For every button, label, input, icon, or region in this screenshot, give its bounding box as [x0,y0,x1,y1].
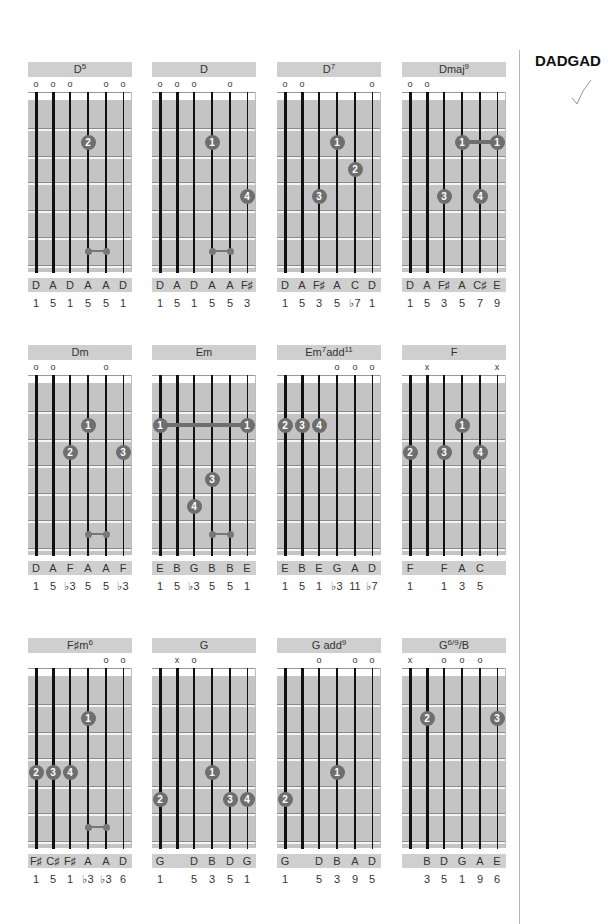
note-name: D [364,561,380,575]
interval-label: 5 [185,872,203,886]
fret-line [152,411,256,414]
note-name: A [294,278,310,292]
open-string-marker: o [297,79,307,89]
fret-line [28,156,132,159]
guitar-string [479,92,480,273]
guitar-string [159,668,162,849]
fret-line [28,210,132,213]
interval-label: 1 [363,296,381,310]
chord-chart: Gxo1234GDBDG15351 [152,638,256,888]
note-name: E [277,561,293,575]
fretboard-edge [380,668,381,848]
guitar-string [301,375,304,556]
fret-line [277,758,381,761]
chord-chart: G add9ooo12GDBAD15395 [277,638,381,888]
fret-line [277,704,381,707]
fret-line [28,732,132,735]
checkmark-icon [570,78,592,106]
interval-label: 3 [203,872,221,886]
chord-name: G [152,638,256,653]
finger-position: 1 [330,765,345,780]
nut [28,92,132,100]
interval-label: 5 [203,296,221,310]
fret-line [28,182,132,185]
barre-bar [160,423,247,427]
open-string-marker: o [31,362,41,372]
guitar-string [301,92,304,273]
note-name: E [311,561,327,575]
finger-position: 1 [81,418,96,433]
guitar-string [69,92,71,273]
interval-label: 3 [418,872,436,886]
interval-label: 5 [221,579,239,593]
note-name: D [115,854,131,868]
chord-extension: 6 [88,638,92,647]
interval-label: 1 [238,872,256,886]
guitar-string [123,668,124,849]
chord-chart: Dmaj9oo1134DAF♯AC♯E153579 [402,62,506,312]
open-string-marker: o [118,79,128,89]
chord-chart: Fxx1234FFAC1135 [402,345,506,595]
finger-position: 4 [240,792,255,807]
note-name: A [222,278,238,292]
note-name: A [80,278,96,292]
fret-line [152,493,256,496]
note-name: A [98,854,114,868]
nut [152,92,256,100]
note-name: C♯ [45,854,61,868]
chord-root: Em [196,346,213,358]
interval-label: 1 [27,579,45,593]
finger-position: 3 [437,189,452,204]
note-name: A [80,561,96,575]
guitar-string [461,92,463,273]
finger-position: 1 [205,135,220,150]
open-string-marker: o [101,655,111,665]
note-name: A [472,854,488,868]
finger-position: 3 [312,189,327,204]
guitar-string [229,92,230,273]
note-name: G [277,854,293,868]
note-name: F [115,561,131,575]
interval-label: 5 [453,296,471,310]
guitar-string [69,668,71,849]
fret-line [152,520,256,523]
chord-root: Dmaj [439,63,465,75]
fret-line [152,548,256,551]
fret-line [28,265,132,268]
chord-name: G add9 [277,638,381,653]
interval-label: ♭7 [346,296,364,310]
note-name: G [329,561,345,575]
note-name: D [402,278,418,292]
open-string-marker: o [350,655,360,665]
guitar-string [247,92,248,273]
muted-string-marker: x [492,362,502,372]
octave-dot [85,531,92,538]
finger-position: 2 [153,792,168,807]
note-name: A [98,561,114,575]
fretboard-edge [255,92,256,272]
note-name: A [347,561,363,575]
chord-root: D [200,63,208,75]
note-name: B [204,854,220,868]
note-name: F♯ [28,854,44,868]
guitar-string [284,92,287,273]
fret-line [277,156,381,159]
finger-position: 1 [153,418,168,433]
muted-string-marker: x [405,655,415,665]
open-string-marker: o [332,362,342,372]
nut [28,375,132,383]
guitar-string [105,375,106,556]
finger-position: 2 [278,792,293,807]
interval-label: 3 [435,296,453,310]
guitar-string [247,668,248,849]
chord-name: D7 [277,62,381,77]
note-name: D [277,278,293,292]
fret-line [402,813,506,816]
chord-root: G [200,639,209,651]
guitar-string [336,92,338,273]
octave-dot [227,248,234,255]
guitar-string [409,375,412,556]
guitar-string [87,92,89,273]
guitar-string [409,668,412,849]
fret-line [152,265,256,268]
